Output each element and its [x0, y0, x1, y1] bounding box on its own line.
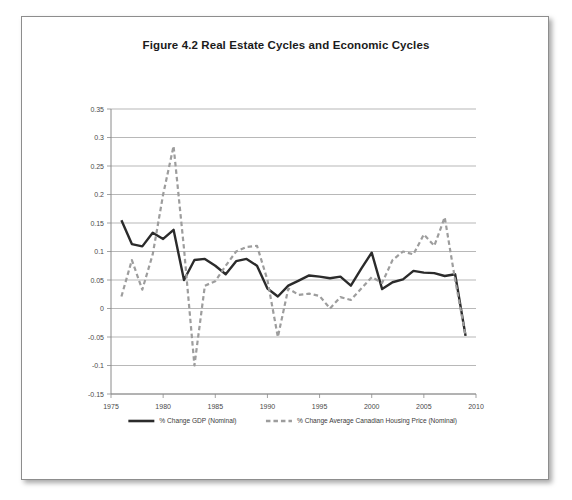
screenshot-page: Figure 4.2 Real Estate Cycles and Econom… [0, 0, 572, 500]
chart-figure: -0.15-0.1-0.0500.050.10.150.20.250.30.35… [22, 17, 550, 481]
x-axis-tick-labels: 19751980198519901995200020052010 [103, 403, 484, 410]
legend-label-0: % Change GDP (Nominal) [159, 417, 236, 425]
line-chart: -0.15-0.1-0.0500.050.10.150.20.250.30.35… [22, 17, 550, 481]
y-tick-label: 0.1 [94, 248, 104, 255]
y-tick-label: 0.05 [90, 277, 104, 284]
y-tick-label: 0.15 [90, 220, 104, 227]
y-tick-label: 0.35 [90, 106, 104, 113]
x-tick-label: 1980 [155, 403, 171, 410]
series-line-housing [121, 146, 465, 365]
y-axis-tick-labels: -0.15-0.1-0.0500.050.10.150.20.250.30.35 [88, 106, 104, 398]
x-tick-label: 1990 [260, 403, 276, 410]
gridlines [107, 109, 476, 398]
x-tick-label: 2005 [416, 403, 432, 410]
y-tick-label: 0.2 [94, 191, 104, 198]
x-tick-label: 1975 [103, 403, 119, 410]
legend-label-1: % Change Average Canadian Housing Price … [297, 417, 457, 425]
y-tick-label: 0.3 [94, 134, 104, 141]
x-tick-label: 2010 [468, 403, 484, 410]
x-tick-label: 1995 [312, 403, 328, 410]
chart-legend: % Change GDP (Nominal)% Change Average C… [128, 417, 457, 425]
y-tick-label: -0.1 [92, 362, 104, 369]
y-tick-label: 0 [100, 305, 104, 312]
x-tick-label: 1985 [207, 403, 223, 410]
data-series [121, 146, 465, 365]
document-sheet: Figure 4.2 Real Estate Cycles and Econom… [21, 16, 549, 480]
y-tick-label: -0.05 [88, 334, 104, 341]
x-tick-label: 2000 [364, 403, 380, 410]
series-line-gdp [121, 220, 465, 336]
y-tick-label: -0.15 [88, 391, 104, 398]
y-tick-label: 0.25 [90, 163, 104, 170]
